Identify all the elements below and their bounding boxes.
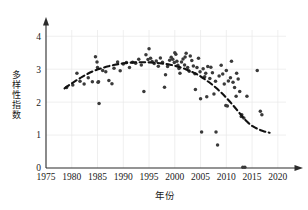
data-point [110,82,114,86]
y-axis-title-char-4: 数 [12,109,21,120]
y-axis-arrowhead [43,17,49,26]
data-point [137,58,141,62]
y-axis-title-char-1: 样 [12,79,21,90]
x-tick-label-1995: 1995 [140,172,159,182]
data-point [229,76,233,80]
data-point [116,60,120,64]
y-tick-label-4: 4 [36,32,41,42]
data-point [234,94,238,98]
data-point [221,72,225,76]
data-point [259,110,263,114]
diversity-index-scatter-chart: 1975198019851990199520002005201020152020… [0,0,308,210]
data-point [225,69,229,73]
x-tick-label-2015: 2015 [243,172,262,182]
data-point [174,53,178,57]
x-tick-label-2005: 2005 [191,172,210,182]
data-point [192,64,196,68]
data-point [208,77,212,81]
data-point [149,57,153,61]
data-point [104,70,108,74]
axes [43,17,303,171]
data-point [128,66,132,70]
data-point [112,66,116,70]
data-point [211,71,215,75]
data-point [201,67,205,71]
x-axis-title-text: 年份 [155,190,175,201]
data-point [189,54,193,58]
data-point [223,82,227,86]
data-point [164,73,168,77]
data-point [214,130,218,134]
data-point [233,86,237,90]
x-axis-arrowhead [295,165,304,171]
x-tick-label-1985: 1985 [88,172,107,182]
data-point [206,65,210,69]
data-point [163,86,167,90]
data-point [142,90,146,94]
data-point [198,70,202,74]
data-point [159,56,163,60]
data-point [97,80,101,84]
data-point [178,71,182,75]
data-point [236,77,240,81]
data-point [209,65,213,69]
data-point [94,55,98,59]
data-point [97,102,101,106]
data-point [199,97,203,101]
data-point [157,64,161,68]
data-point [180,60,184,64]
data-point [245,94,249,98]
data-point [118,69,122,73]
y-axis-tick-labels: 01234 [36,32,41,174]
data-point [212,92,216,96]
x-tick-label-2000: 2000 [165,172,184,182]
x-axis-tick-labels: 1975198019851990199520002005201020152020 [37,172,288,182]
gridlines [46,30,286,168]
data-point [91,80,95,84]
data-point [230,60,234,64]
data-point [238,90,242,94]
data-point [235,71,239,75]
x-tick-label-1975: 1975 [37,172,56,182]
y-tick-label-0: 0 [36,163,41,173]
data-point [184,52,188,56]
data-point [78,80,82,84]
data-point [197,57,201,61]
data-point [231,81,235,85]
y-axis-title-char-0: 多 [12,69,21,80]
data-point [204,71,208,75]
trend-curve-dashed [65,62,270,132]
data-point [171,58,175,62]
data-point [219,63,223,67]
data-point [82,82,86,86]
data-point [216,143,220,147]
scatter-points [65,47,264,169]
y-axis-title-char-2: 性 [12,89,21,100]
data-point [214,80,218,84]
data-point [95,60,99,64]
data-point [140,63,144,67]
data-point [183,63,187,67]
y-tick-label-1: 1 [36,130,41,140]
data-point [168,59,172,63]
chart-canvas: 1975198019851990199520002005201020152020… [0,0,308,210]
x-axis-title: 年份 [155,190,175,201]
x-tick-label-1980: 1980 [62,172,81,182]
data-point [200,130,204,134]
data-point [226,104,230,108]
data-point [75,71,79,75]
data-point [144,53,148,57]
data-point [194,88,198,92]
data-point [205,95,209,99]
data-point [147,47,151,51]
data-point [87,76,91,80]
data-point [217,74,221,78]
trend-line [65,62,270,132]
y-tick-label-3: 3 [36,65,41,75]
x-tick-label-2010: 2010 [217,172,236,182]
data-point [107,79,111,83]
x-tick-label-1990: 1990 [114,172,133,182]
data-point [255,69,259,73]
data-point [183,55,187,59]
data-point [175,60,179,64]
